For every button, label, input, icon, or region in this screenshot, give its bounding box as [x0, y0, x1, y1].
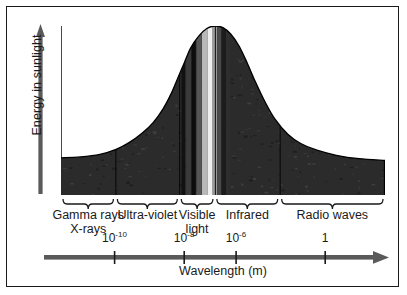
spectrum-curve	[61, 26, 385, 195]
band-label-radio-waves: Radio waves	[272, 208, 392, 222]
wavelength-tick-mark	[235, 251, 237, 264]
tick-exponent: -8	[187, 230, 194, 239]
wavelength-tick-labels: 10-1010-810-61	[61, 231, 385, 247]
y-axis-label: Energy in sunlight	[30, 5, 44, 165]
tick-exponent: -6	[239, 230, 246, 239]
tick-mantissa: 1	[322, 231, 329, 245]
band-label-line1: Radio waves	[272, 208, 392, 222]
figure-root: Energy in sunlight Gamma raysX-raysUltra…	[0, 0, 407, 295]
tick-mantissa: 10	[226, 231, 239, 245]
wavelength-tick-label: 10-6	[226, 231, 246, 245]
energy-distribution-plot	[61, 26, 385, 195]
wavelength-tick-mark	[324, 251, 326, 264]
wavelength-tick-label: 10-10	[102, 231, 127, 245]
tick-exponent: -10	[115, 230, 127, 239]
wavelength-tick-mark	[114, 251, 116, 264]
wavelength-tick-label: 1	[322, 231, 329, 245]
x-axis-label: Wavelength (m)	[61, 264, 385, 278]
wavelength-tick-mark	[183, 251, 185, 264]
wavelength-axis-arrow-icon	[44, 250, 389, 263]
band-braces	[61, 196, 385, 208]
wavelength-tick-label: 10-8	[174, 231, 194, 245]
tick-mantissa: 10	[102, 231, 115, 245]
tick-mantissa: 10	[174, 231, 187, 245]
